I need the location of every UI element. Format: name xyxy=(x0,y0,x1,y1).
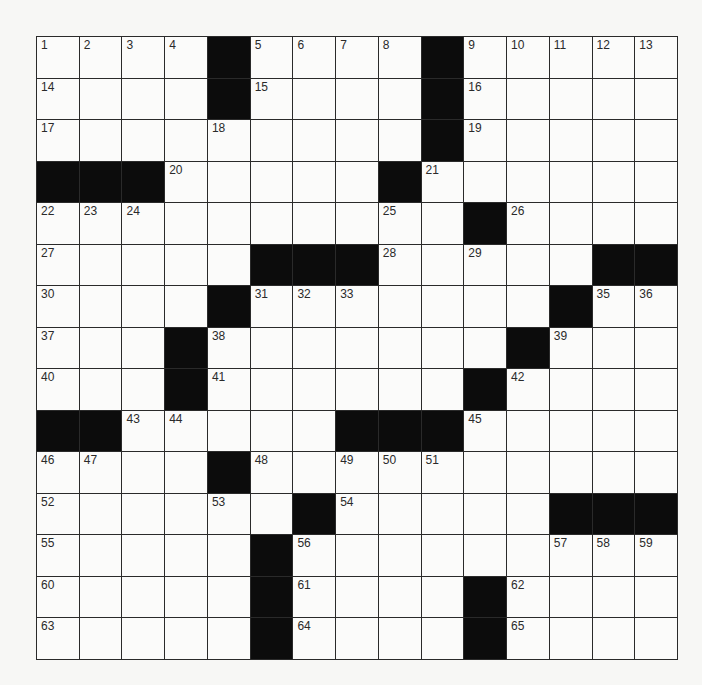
grid-cell[interactable] xyxy=(293,162,336,204)
grid-cell[interactable]: 31 xyxy=(251,286,294,328)
grid-cell[interactable] xyxy=(422,369,465,411)
grid-cell[interactable] xyxy=(122,245,165,287)
grid-cell[interactable] xyxy=(635,577,678,619)
grid-cell[interactable] xyxy=(122,452,165,494)
grid-cell[interactable] xyxy=(208,535,251,577)
grid-cell[interactable]: 57 xyxy=(550,535,593,577)
grid-cell[interactable] xyxy=(379,328,422,370)
grid-cell[interactable] xyxy=(379,494,422,536)
grid-cell[interactable] xyxy=(208,618,251,660)
grid-cell[interactable]: 29 xyxy=(464,245,507,287)
grid-cell[interactable] xyxy=(122,577,165,619)
grid-cell[interactable] xyxy=(422,328,465,370)
grid-cell[interactable] xyxy=(507,535,550,577)
grid-cell[interactable] xyxy=(122,328,165,370)
grid-cell[interactable] xyxy=(122,286,165,328)
grid-cell[interactable]: 25 xyxy=(379,203,422,245)
grid-cell[interactable] xyxy=(464,286,507,328)
grid-cell[interactable] xyxy=(422,494,465,536)
grid-cell[interactable] xyxy=(208,162,251,204)
grid-cell[interactable] xyxy=(379,286,422,328)
grid-cell[interactable]: 20 xyxy=(165,162,208,204)
grid-cell[interactable] xyxy=(122,494,165,536)
grid-cell[interactable]: 43 xyxy=(122,411,165,453)
grid-cell[interactable] xyxy=(593,328,636,370)
grid-cell[interactable]: 52 xyxy=(37,494,80,536)
grid-cell[interactable]: 44 xyxy=(165,411,208,453)
grid-cell[interactable] xyxy=(336,120,379,162)
grid-cell[interactable] xyxy=(507,286,550,328)
grid-cell[interactable]: 28 xyxy=(379,245,422,287)
grid-cell[interactable]: 62 xyxy=(507,577,550,619)
grid-cell[interactable]: 11 xyxy=(550,37,593,79)
grid-cell[interactable]: 15 xyxy=(251,79,294,121)
grid-cell[interactable] xyxy=(464,452,507,494)
grid-cell[interactable] xyxy=(422,203,465,245)
grid-cell[interactable]: 65 xyxy=(507,618,550,660)
grid-cell[interactable]: 63 xyxy=(37,618,80,660)
grid-cell[interactable] xyxy=(507,162,550,204)
grid-cell[interactable] xyxy=(293,452,336,494)
grid-cell[interactable] xyxy=(293,369,336,411)
grid-cell[interactable] xyxy=(80,245,123,287)
grid-cell[interactable]: 18 xyxy=(208,120,251,162)
grid-cell[interactable] xyxy=(251,162,294,204)
grid-cell[interactable] xyxy=(422,618,465,660)
grid-cell[interactable] xyxy=(165,494,208,536)
grid-cell[interactable] xyxy=(635,162,678,204)
grid-cell[interactable]: 6 xyxy=(293,37,336,79)
grid-cell[interactable] xyxy=(593,577,636,619)
grid-cell[interactable]: 4 xyxy=(165,37,208,79)
grid-cell[interactable] xyxy=(550,369,593,411)
grid-cell[interactable]: 38 xyxy=(208,328,251,370)
grid-cell[interactable]: 51 xyxy=(422,452,465,494)
grid-cell[interactable] xyxy=(379,535,422,577)
grid-cell[interactable]: 27 xyxy=(37,245,80,287)
grid-cell[interactable] xyxy=(507,411,550,453)
grid-cell[interactable] xyxy=(122,120,165,162)
grid-cell[interactable] xyxy=(593,452,636,494)
grid-cell[interactable] xyxy=(635,79,678,121)
grid-cell[interactable] xyxy=(165,245,208,287)
grid-cell[interactable]: 37 xyxy=(37,328,80,370)
grid-cell[interactable] xyxy=(165,79,208,121)
grid-cell[interactable]: 64 xyxy=(293,618,336,660)
grid-cell[interactable]: 32 xyxy=(293,286,336,328)
grid-cell[interactable] xyxy=(80,120,123,162)
grid-cell[interactable] xyxy=(635,618,678,660)
grid-cell[interactable]: 54 xyxy=(336,494,379,536)
grid-cell[interactable]: 24 xyxy=(122,203,165,245)
grid-cell[interactable]: 55 xyxy=(37,535,80,577)
grid-cell[interactable] xyxy=(122,369,165,411)
grid-cell[interactable] xyxy=(464,494,507,536)
grid-cell[interactable] xyxy=(165,577,208,619)
grid-cell[interactable]: 46 xyxy=(37,452,80,494)
grid-cell[interactable] xyxy=(507,494,550,536)
grid-cell[interactable] xyxy=(293,411,336,453)
grid-cell[interactable] xyxy=(165,452,208,494)
grid-cell[interactable] xyxy=(80,535,123,577)
grid-cell[interactable] xyxy=(593,618,636,660)
grid-cell[interactable] xyxy=(336,79,379,121)
grid-cell[interactable]: 14 xyxy=(37,79,80,121)
grid-cell[interactable] xyxy=(550,79,593,121)
grid-cell[interactable] xyxy=(593,79,636,121)
grid-cell[interactable] xyxy=(550,162,593,204)
grid-cell[interactable] xyxy=(165,286,208,328)
grid-cell[interactable]: 9 xyxy=(464,37,507,79)
grid-cell[interactable]: 50 xyxy=(379,452,422,494)
grid-cell[interactable] xyxy=(422,535,465,577)
grid-cell[interactable] xyxy=(208,577,251,619)
grid-cell[interactable] xyxy=(635,369,678,411)
grid-cell[interactable] xyxy=(165,203,208,245)
grid-cell[interactable] xyxy=(293,120,336,162)
grid-cell[interactable] xyxy=(379,79,422,121)
grid-cell[interactable] xyxy=(422,245,465,287)
grid-cell[interactable]: 22 xyxy=(37,203,80,245)
grid-cell[interactable] xyxy=(379,369,422,411)
grid-cell[interactable] xyxy=(165,535,208,577)
grid-cell[interactable]: 49 xyxy=(336,452,379,494)
grid-cell[interactable] xyxy=(464,162,507,204)
grid-cell[interactable] xyxy=(635,120,678,162)
grid-cell[interactable] xyxy=(635,452,678,494)
